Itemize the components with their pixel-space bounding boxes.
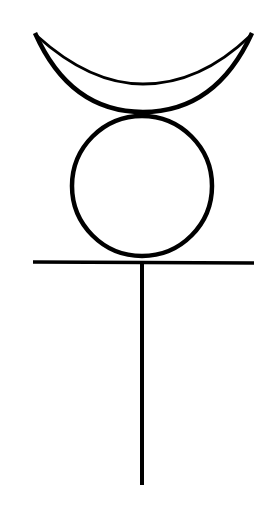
symbol-canvas: Mercury symbol xyxy=(0,0,265,506)
crescent-outer-arc xyxy=(35,33,252,112)
circle-ring xyxy=(72,116,212,256)
mercury-symbol-icon xyxy=(0,0,265,506)
crescent-inner-arc xyxy=(37,36,250,84)
